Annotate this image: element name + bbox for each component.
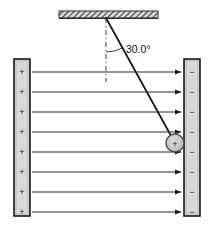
right-plate-charge: − bbox=[189, 187, 194, 197]
left-plate-charge: + bbox=[19, 147, 24, 157]
angle-label: 30.0° bbox=[126, 43, 151, 55]
charged-ball: + bbox=[166, 134, 184, 152]
right-plate-charge: − bbox=[189, 167, 194, 177]
right-plate-charge: − bbox=[189, 87, 194, 97]
ceiling-support bbox=[59, 11, 158, 18]
right-plate-charge: − bbox=[189, 67, 194, 77]
electric-field-lines bbox=[32, 72, 181, 212]
right-negative-plate: − − − − − − − − bbox=[184, 59, 200, 217]
ball-charge-symbol: + bbox=[172, 139, 177, 149]
left-plate-charge: + bbox=[19, 67, 24, 77]
physics-diagram-figure: 30.0° + + + + + + + + bbox=[0, 0, 213, 226]
right-plate-charge: − bbox=[189, 107, 194, 117]
left-plate-charge: + bbox=[19, 207, 24, 217]
right-plate-charge: − bbox=[189, 207, 194, 217]
left-plate-charge: + bbox=[19, 87, 24, 97]
right-plate-charge: − bbox=[189, 147, 194, 157]
left-plate-charge: + bbox=[19, 127, 24, 137]
diagram-canvas: 30.0° + + + + + + + + bbox=[0, 0, 213, 226]
left-plate-charge: + bbox=[19, 187, 24, 197]
left-positive-plate: + + + + + + + + bbox=[14, 59, 30, 217]
pendulum-string bbox=[106, 18, 175, 143]
left-plate-charge: + bbox=[19, 167, 24, 177]
angle-arc bbox=[106, 48, 123, 52]
ceiling-hatched-bar bbox=[59, 11, 158, 18]
left-plate-charge: + bbox=[19, 107, 24, 117]
right-plate-charge: − bbox=[189, 127, 194, 137]
